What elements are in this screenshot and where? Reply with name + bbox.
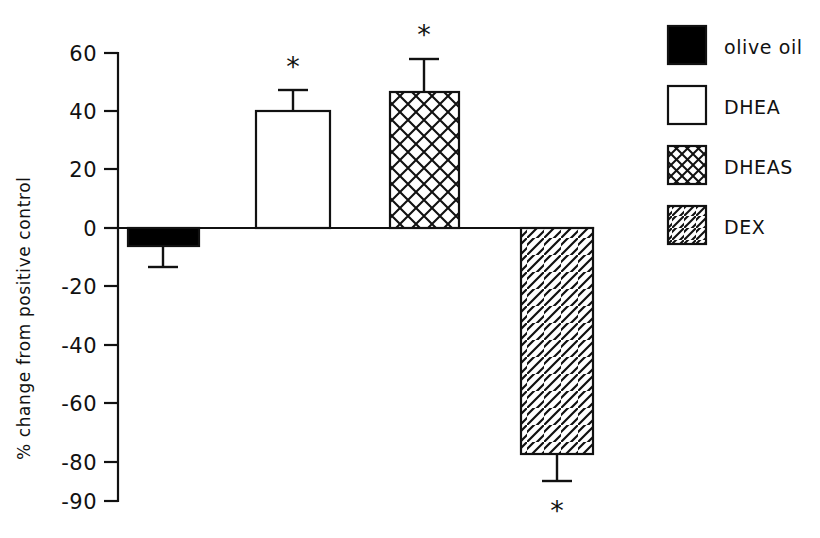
legend-swatch-dhea: [668, 86, 706, 124]
legend-item-dhea[interactable]: DHEA: [668, 86, 780, 124]
legend-label-dhea: DHEA: [724, 96, 780, 118]
legend-item-dex[interactable]: DEX: [668, 206, 765, 244]
chart-svg: 60 40 20 0 -20 -40 -60 -80 -90 % change …: [0, 0, 820, 538]
bar-rect-olive-oil[interactable]: [128, 228, 199, 246]
y-tick-label--80: -80: [61, 451, 97, 475]
y-tick-label--20: -20: [61, 275, 97, 299]
bar-rect-dhea[interactable]: [256, 111, 330, 228]
legend-label-dex: DEX: [724, 216, 765, 238]
bar-dex[interactable]: *: [521, 228, 593, 526]
legend-swatch-dex: [668, 206, 706, 244]
y-tick-label-20: 20: [69, 158, 97, 182]
y-axis-title: % change from positive control: [14, 176, 34, 460]
bar-dhea[interactable]: *: [256, 51, 330, 228]
y-axis: 60 40 20 0 -20 -40 -60 -80 -90 % change …: [14, 42, 118, 514]
legend-item-olive-oil[interactable]: olive oil: [668, 26, 803, 64]
y-tick-label-40: 40: [69, 100, 97, 124]
significance-star-dex: *: [550, 495, 564, 526]
legend-item-dheas[interactable]: DHEAS: [668, 146, 793, 184]
bar-dheas[interactable]: *: [390, 19, 459, 228]
y-tick-label-60: 60: [69, 42, 97, 66]
y-tick-label--60: -60: [61, 392, 97, 416]
legend-label-dheas: DHEAS: [724, 156, 793, 178]
legend-label-olive-oil: olive oil: [724, 36, 803, 58]
significance-star-dheas: *: [417, 19, 431, 50]
bar-rect-dex[interactable]: [521, 228, 593, 454]
bar-rect-dheas[interactable]: [390, 92, 459, 228]
bar-olive-oil[interactable]: [128, 228, 199, 267]
y-tick-label--90: -90: [61, 490, 97, 514]
y-tick-label-0: 0: [83, 217, 97, 241]
legend: olive oil DHEA DHEAS DEX: [668, 26, 803, 244]
significance-star-dhea: *: [286, 51, 300, 82]
y-tick-label--40: -40: [61, 334, 97, 358]
bar-chart-figure: 60 40 20 0 -20 -40 -60 -80 -90 % change …: [0, 0, 820, 538]
legend-swatch-dheas: [668, 146, 706, 184]
legend-swatch-olive-oil: [668, 26, 706, 64]
